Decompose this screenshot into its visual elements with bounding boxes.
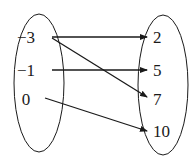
arrow-icon <box>52 38 147 97</box>
domain-element-label: −3 <box>17 28 35 47</box>
range-element-label: 5 <box>153 61 162 80</box>
range-element-label: 7 <box>153 90 162 109</box>
domain-element-label: −1 <box>17 61 35 80</box>
range-element-label: 10 <box>153 122 170 141</box>
arrow-icon <box>45 98 147 131</box>
mapping-diagram: −3−1025710 <box>0 0 195 161</box>
domain-element-label: 0 <box>22 90 31 109</box>
range-element-label: 2 <box>153 28 162 47</box>
